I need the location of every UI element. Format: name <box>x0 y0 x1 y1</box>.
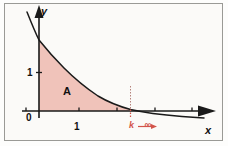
origin-label: 0 <box>26 113 32 123</box>
limit-arrow-spacer <box>134 120 145 130</box>
shaded-area-label: A <box>63 86 71 97</box>
limit-annotation: k ∞ <box>129 120 152 130</box>
x-axis-label: x <box>205 125 211 136</box>
figure-container: y x 0 1 1 A k ∞ <box>0 0 228 146</box>
plot-canvas <box>0 0 228 146</box>
x-axis-arrowhead <box>198 106 216 117</box>
limit-infinity-label: ∞ <box>145 119 152 130</box>
y-axis-tick-label-1: 1 <box>27 68 33 78</box>
x-axis-tick-label-1: 1 <box>74 122 80 132</box>
y-axis-label: y <box>41 6 47 17</box>
shaded-area-region <box>39 40 131 111</box>
